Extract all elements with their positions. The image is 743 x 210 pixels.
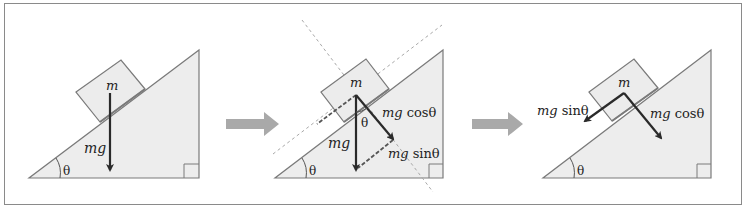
mass-label: m bbox=[106, 78, 118, 93]
figure: θ m mg θ θ m mg mgcosθ mgsinθ bbox=[0, 0, 743, 210]
parallel-component-label: mgsinθ bbox=[388, 146, 440, 161]
angle-label: θ bbox=[577, 164, 584, 178]
mass-label: m bbox=[618, 75, 630, 90]
normal-mg: mg bbox=[382, 105, 403, 120]
normal-mg: mg bbox=[650, 106, 671, 121]
normal-fn: cosθ bbox=[675, 106, 705, 121]
inner-angle-label: θ bbox=[361, 116, 368, 130]
weight-label: mg bbox=[328, 135, 350, 151]
angle-label: θ bbox=[63, 164, 70, 178]
mass-label: m bbox=[350, 75, 362, 90]
normal-component-label: mgcosθ bbox=[382, 105, 436, 120]
parallel-fn: sinθ bbox=[562, 103, 589, 118]
parallel-mg: mg bbox=[537, 103, 558, 118]
normal-fn: cosθ bbox=[407, 105, 437, 120]
weight-label: mg bbox=[84, 140, 106, 156]
parallel-component-label: mgsinθ bbox=[537, 103, 589, 118]
parallel-mg: mg bbox=[388, 146, 409, 161]
angle-label: θ bbox=[309, 164, 316, 178]
parallel-fn: sinθ bbox=[413, 146, 440, 161]
normal-component-label: mgcosθ bbox=[650, 106, 704, 121]
